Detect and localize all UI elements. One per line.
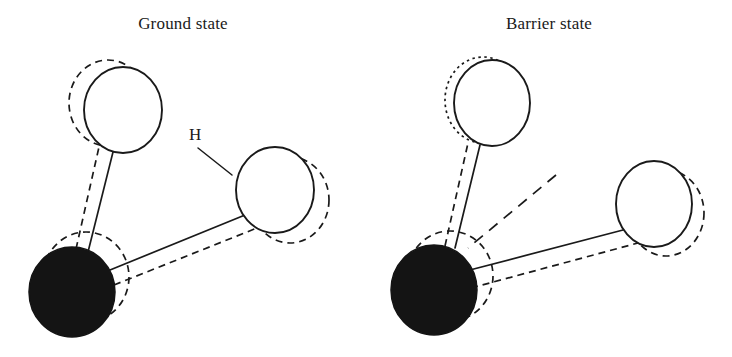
bond-heavy-hydrogen-ghost-barrier: [471, 243, 638, 288]
bond-heavy-upper-ground: [88, 152, 113, 252]
heavy-atom-ground: [29, 247, 115, 337]
bond-heavy-hydrogen-barrier: [466, 230, 623, 271]
upper-atom-ground: [84, 67, 162, 153]
ground-state-molecule-svg: [0, 0, 366, 357]
figure-canvas: Ground state H Barrier state: [0, 0, 732, 357]
barrier-state-molecule-svg: [366, 0, 732, 357]
upper-atom-barrier: [454, 60, 530, 146]
bond-heavy-upper-barrier: [455, 145, 480, 248]
bond-heavy-hydrogen-ghost-ground: [114, 226, 262, 285]
panel-barrier-state: Barrier state H: [366, 0, 732, 357]
hydrogen-atom-ground: [236, 147, 314, 233]
bond-heavy-hydrogen-ground: [110, 215, 245, 270]
h-label-leader-ground: [198, 148, 232, 175]
h-label-ground: H: [189, 125, 201, 145]
panel-ground-state: Ground state H: [0, 0, 366, 357]
heavy-atom-barrier: [391, 245, 477, 335]
h-label-leader-barrier: [468, 175, 556, 248]
hydrogen-atom-barrier: [616, 161, 692, 247]
